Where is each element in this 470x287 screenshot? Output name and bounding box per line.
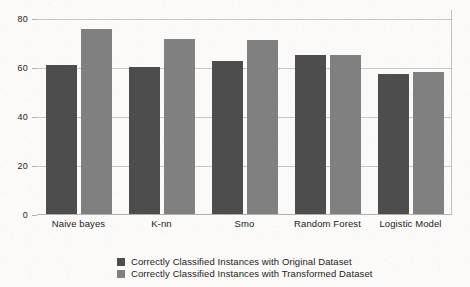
bar-random-forest-series-0: [295, 55, 326, 214]
y-tick-label-20: 20: [18, 161, 28, 171]
bar-k-nn-series-0: [129, 67, 160, 214]
y-tick-label-40: 40: [18, 112, 28, 122]
plot-area: 020406080: [37, 10, 452, 215]
bar-random-forest-series-1: [330, 55, 361, 214]
legend-swatch-1: [117, 270, 125, 278]
legend-label-0: Correctly Classified Instances with Orig…: [131, 256, 352, 267]
bar-smo-series-1: [247, 40, 278, 214]
y-tick-label-0: 0: [23, 210, 28, 220]
legend-swatch-0: [117, 258, 125, 266]
y-tick-label-60: 60: [18, 63, 28, 73]
x-axis-category-labels: Naive bayesK-nnSmoRandom ForestLogistic …: [37, 218, 452, 234]
y-tick-mark-0: [32, 215, 37, 216]
bar-naive-bayes-series-1: [81, 29, 112, 214]
x-axis-label-smo: Smo: [235, 218, 255, 229]
chart-legend: Correctly Classified Instances with Orig…: [117, 256, 373, 280]
legend-item-1: Correctly Classified Instances with Tran…: [117, 268, 373, 279]
x-axis-label-k-nn: K-nn: [151, 218, 171, 229]
plot-right-border: [451, 10, 452, 215]
bar-logistic-model-series-1: [413, 72, 444, 214]
x-axis-label-naive-bayes: Naive bayes: [52, 218, 105, 229]
legend-item-0: Correctly Classified Instances with Orig…: [117, 256, 373, 267]
x-axis-label-logistic-model: Logistic Model: [379, 218, 441, 229]
y-tick-label-80: 80: [18, 14, 28, 24]
bar-smo-series-0: [212, 61, 243, 214]
chart-figure: 020406080 Naive bayesK-nnSmoRandom Fores…: [0, 0, 470, 287]
bar-logistic-model-series-0: [378, 74, 409, 214]
bar-series-container: [37, 10, 452, 215]
legend-label-1: Correctly Classified Instances with Tran…: [131, 268, 373, 279]
x-axis-baseline: [37, 214, 452, 215]
bar-naive-bayes-series-0: [46, 65, 77, 214]
x-axis-label-random-forest: Random Forest: [294, 218, 361, 229]
bar-k-nn-series-1: [164, 39, 195, 214]
